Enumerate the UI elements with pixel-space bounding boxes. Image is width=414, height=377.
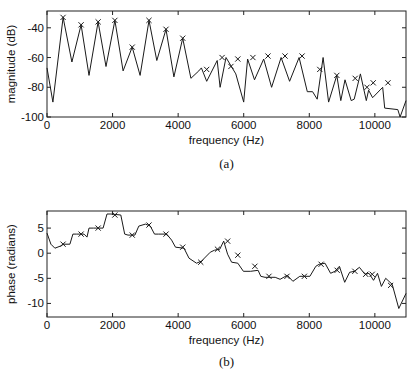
x-marker-icon <box>299 53 304 58</box>
x-marker-icon <box>180 245 185 250</box>
y-tick-label: -40 <box>27 22 44 34</box>
x-tick-label: 0 <box>44 319 50 331</box>
x-marker-icon <box>225 239 230 244</box>
x-marker-icon <box>219 55 224 60</box>
x-marker-icon <box>364 85 369 90</box>
y-tick-label: 0 <box>38 247 44 259</box>
x-marker-icon <box>235 56 240 61</box>
x-axis-label: frequency (Hz) <box>189 334 265 346</box>
figure: 0200040006000800010000-40-60-80-100frequ… <box>0 0 414 377</box>
figure-caption: (a) <box>219 156 233 171</box>
x-tick-label: 4000 <box>165 319 191 331</box>
magnitude-curve <box>47 17 406 117</box>
y-axis-label: magnitude (dB) <box>5 25 17 104</box>
x-marker-icon <box>250 55 255 60</box>
x-axis-label: frequency (Hz) <box>189 134 265 146</box>
x-marker-icon <box>204 67 209 72</box>
x-tick-label: 10000 <box>359 119 391 131</box>
y-tick-label: 5 <box>38 222 44 234</box>
x-tick-label: 8000 <box>296 119 322 131</box>
x-marker-icon <box>252 264 257 269</box>
y-tick-label: -80 <box>27 81 44 93</box>
y-tick-label: -100 <box>21 111 44 123</box>
x-tick-label: 8000 <box>296 319 322 331</box>
x-marker-icon <box>235 253 240 258</box>
x-marker-icon <box>265 53 270 58</box>
x-tick-label: 6000 <box>231 319 257 331</box>
y-tick-label: -60 <box>27 52 44 64</box>
x-tick-label: 6000 <box>231 119 257 131</box>
x-marker-icon <box>228 64 233 69</box>
x-tick-label: 10000 <box>359 319 391 331</box>
magnitude-plot: 0200040006000800010000-40-60-80-100frequ… <box>5 11 406 171</box>
x-marker-icon <box>363 272 368 277</box>
y-axis-label: phase (radians) <box>5 224 17 304</box>
x-marker-icon <box>371 80 376 85</box>
x-tick-label: 0 <box>44 119 50 131</box>
phase-curve <box>47 214 406 309</box>
x-tick-label: 2000 <box>100 319 126 331</box>
phase-plot-frame <box>47 211 406 317</box>
x-tick-label: 4000 <box>165 119 191 131</box>
y-tick-label: -5 <box>34 272 44 284</box>
x-marker-icon <box>282 53 287 58</box>
x-marker-icon <box>353 76 358 81</box>
x-marker-icon <box>385 80 390 85</box>
x-marker-icon <box>266 274 271 279</box>
x-marker-icon <box>370 272 375 277</box>
figure-caption: (b) <box>219 354 234 369</box>
y-tick-label: -10 <box>27 297 44 309</box>
magnitude-plot-frame <box>47 11 406 117</box>
phase-plot: 020004000600080001000050-5-10frequency (… <box>5 211 406 369</box>
x-tick-label: 2000 <box>100 119 126 131</box>
